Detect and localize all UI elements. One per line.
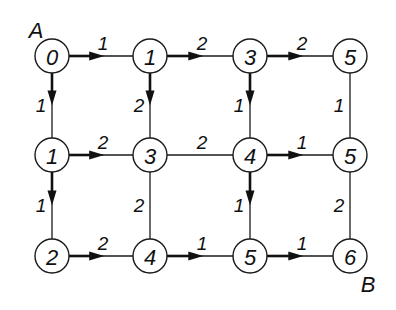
edge-weight: 1 [297, 233, 308, 254]
grid-graph: 12222121111221112 013513452456 A B [0, 0, 396, 310]
arrow-down-icon [48, 191, 57, 206]
edge-weight: 2 [296, 33, 308, 54]
arrow-down-icon [246, 91, 255, 106]
edge-r0c3-r1c3: 1 [334, 73, 350, 138]
node-value: 5 [244, 245, 257, 270]
edge-r1c1-r2c1: 2 [133, 172, 150, 239]
edge-r0c1-r1c1: 2 [133, 73, 155, 138]
node-value: 4 [244, 144, 256, 169]
edges-layer: 12222121111221112 [36, 33, 350, 261]
arrow-down-icon [246, 191, 255, 206]
node-r1c1: 3 [133, 138, 167, 172]
edge-r0c0-r0c1: 1 [69, 33, 133, 61]
edge-r1c0-r2c0: 1 [36, 172, 57, 239]
edge-weight: 1 [234, 195, 245, 216]
node-r1c3: 5 [333, 138, 367, 172]
edge-r0c1-r0c2: 2 [167, 33, 233, 61]
edge-r1c1-r1c2: 2 [167, 132, 233, 156]
edge-weight: 1 [98, 33, 109, 54]
node-value: 2 [45, 245, 58, 270]
start-label: A [27, 18, 44, 43]
edge-r2c1-r2c2: 1 [167, 233, 233, 261]
edge-weight: 2 [133, 95, 145, 116]
node-value: 0 [46, 45, 59, 70]
edge-weight: 1 [234, 95, 245, 116]
node-r2c1: 4 [133, 239, 167, 273]
node-r0c2: 3 [233, 39, 267, 73]
node-value: 4 [144, 245, 156, 270]
node-r2c0: 2 [35, 239, 69, 273]
edge-r1c2-r1c3: 1 [267, 132, 333, 160]
end-label: B [361, 272, 376, 297]
node-r1c2: 4 [233, 138, 267, 172]
node-r0c0: 0 [35, 39, 69, 73]
node-r1c0: 1 [35, 138, 69, 172]
edge-r0c2-r1c2: 1 [234, 73, 255, 138]
node-r0c3: 5 [333, 39, 367, 73]
node-r2c3: 6 [333, 239, 367, 273]
edge-r1c0-r1c1: 2 [69, 132, 133, 160]
edge-weight: 2 [133, 195, 145, 216]
edge-r1c2-r2c2: 1 [234, 172, 255, 239]
edge-weight: 2 [97, 233, 109, 254]
edge-weight: 1 [297, 132, 308, 153]
arrow-down-icon [146, 91, 155, 106]
edge-r0c0-r1c0: 1 [36, 73, 57, 138]
edge-weight: 2 [196, 132, 208, 153]
node-value: 1 [144, 45, 156, 70]
edge-weight: 2 [333, 195, 345, 216]
edge-r0c2-r0c3: 2 [267, 33, 333, 61]
edge-weight: 1 [36, 195, 47, 216]
edge-weight: 1 [36, 95, 47, 116]
edge-weight: 1 [334, 95, 345, 116]
edge-r2c2-r2c3: 1 [267, 233, 333, 261]
edge-r1c3-r2c3: 2 [333, 172, 350, 239]
node-value: 3 [144, 144, 157, 169]
node-value: 3 [244, 45, 257, 70]
arrow-down-icon [48, 91, 57, 106]
node-value: 1 [46, 144, 58, 169]
node-r0c1: 1 [133, 39, 167, 73]
node-value: 5 [344, 45, 357, 70]
node-value: 6 [344, 245, 357, 270]
node-r2c2: 5 [233, 239, 267, 273]
node-value: 5 [344, 144, 357, 169]
edge-weight: 1 [197, 233, 208, 254]
edge-r2c0-r2c1: 2 [69, 233, 133, 261]
edge-weight: 2 [196, 33, 208, 54]
edge-weight: 2 [97, 132, 109, 153]
